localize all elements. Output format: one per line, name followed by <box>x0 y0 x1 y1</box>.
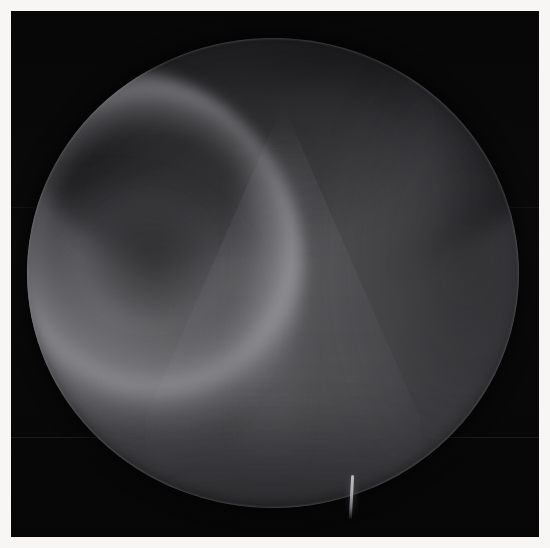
instrument-probe-tip <box>345 475 359 521</box>
circular-field-of-view <box>27 38 519 508</box>
inferior-shadow <box>27 376 519 508</box>
radiograph-plate <box>11 11 539 537</box>
fluoroscopy-image-viewer <box>0 0 550 548</box>
